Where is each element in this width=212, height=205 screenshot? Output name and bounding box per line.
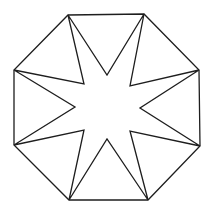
octagon-star-figure — [0, 0, 212, 205]
octagon-outline — [14, 14, 200, 200]
figure-canvas — [0, 0, 212, 205]
